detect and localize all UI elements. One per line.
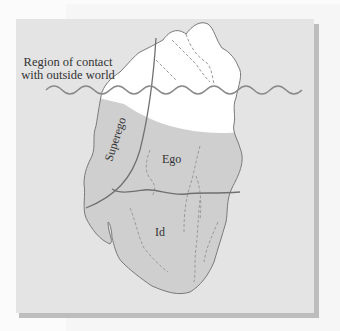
iceberg-diagram: Superego Ego Id [0,0,340,331]
caption-line-2: with outside world [12,69,124,82]
caption-region-of-contact: Region of contact with outside world [12,56,124,82]
ego-label: Ego [162,152,181,166]
id-label: Id [155,225,165,239]
